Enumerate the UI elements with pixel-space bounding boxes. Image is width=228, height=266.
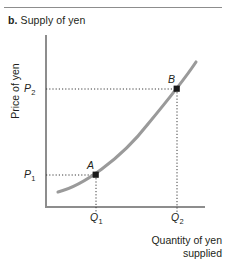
y-tick-p2-sub: 2 (31, 88, 35, 97)
y-tick-label-p1: P1 (24, 169, 35, 180)
x-tick-q2-sub: 2 (179, 217, 183, 226)
x-tick-q1-sub: 1 (98, 217, 102, 226)
x-tick-q2-base: Q (171, 211, 179, 223)
y-tick-p2-base: P (24, 82, 31, 94)
supply-curve (58, 62, 196, 192)
x-axis-title-line2: supplied (82, 247, 222, 260)
data-point-b-marker (174, 86, 180, 92)
x-tick-q1-base: Q (90, 211, 98, 223)
x-axis-title: Quantity of yen supplied (82, 234, 222, 259)
data-point-a-marker (93, 172, 99, 178)
y-axis-title: Price of yen (9, 51, 21, 131)
x-tick-label-q2: Q2 (171, 212, 183, 223)
supply-of-yen-figure: b. Supply of yen Price of yen Quantity o… (0, 0, 228, 266)
y-tick-p1-sub: 1 (31, 174, 35, 183)
y-tick-p1-base: P (24, 168, 31, 180)
plot-area (0, 0, 228, 266)
data-point-label-b: B (168, 74, 175, 85)
x-tick-label-q1: Q1 (90, 212, 102, 223)
y-tick-label-p2: P2 (24, 83, 35, 94)
x-axis-title-line1: Quantity of yen (82, 234, 222, 247)
data-point-label-a: A (87, 160, 94, 171)
